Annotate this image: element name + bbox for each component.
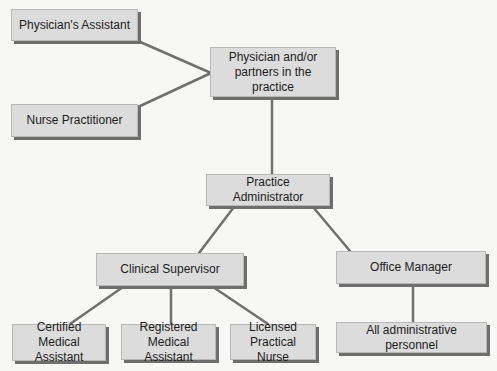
edge-admin-office bbox=[313, 207, 350, 251]
node-physician: Physician and/or partners in the practic… bbox=[210, 47, 336, 97]
node-registered-medical-assistant: Registered Medical Assistant bbox=[121, 324, 216, 360]
node-label-line1: Certified Medical bbox=[17, 320, 101, 350]
edge-clinical-cma bbox=[70, 287, 123, 324]
node-certified-medical-assistant: Certified Medical Assistant bbox=[12, 324, 106, 361]
node-label-line1: Licensed bbox=[249, 320, 297, 335]
node-licensed-practical-nurse: Licensed Practical Nurse bbox=[230, 324, 316, 360]
node-label-line1: Registered bbox=[139, 320, 197, 335]
node-label: Clinical Supervisor bbox=[120, 262, 219, 277]
node-label-line1: Physician and/or bbox=[229, 50, 318, 65]
node-label: Nurse Practitioner bbox=[26, 113, 122, 128]
node-label: Practice Administrator bbox=[211, 175, 325, 205]
edge-clinical-lpn bbox=[213, 287, 268, 324]
node-physicians-assistant: Physician's Assistant bbox=[11, 9, 138, 41]
node-clinical-supervisor: Clinical Supervisor bbox=[96, 253, 244, 286]
node-label-line2: Medical Assistant bbox=[126, 335, 211, 365]
node-office-manager: Office Manager bbox=[336, 251, 486, 284]
org-chart: Physician's Assistant Nurse Practitioner… bbox=[0, 0, 497, 371]
edge-admin-clinical bbox=[199, 207, 234, 253]
node-label-line2: Practical Nurse bbox=[235, 335, 311, 365]
node-label: Office Manager bbox=[370, 260, 452, 275]
node-label-line2: Assistant bbox=[35, 350, 84, 365]
node-practice-administrator: Practice Administrator bbox=[206, 174, 330, 206]
node-label-line2: partners in the practice bbox=[215, 65, 331, 95]
node-label: Physician's Assistant bbox=[19, 18, 130, 33]
node-label: All administrative personnel bbox=[341, 323, 482, 353]
edge-np-physician bbox=[138, 73, 211, 107]
edge-pa-physician bbox=[138, 41, 211, 73]
node-all-administrative-personnel: All administrative personnel bbox=[336, 322, 487, 353]
node-nurse-practitioner: Nurse Practitioner bbox=[11, 104, 138, 137]
